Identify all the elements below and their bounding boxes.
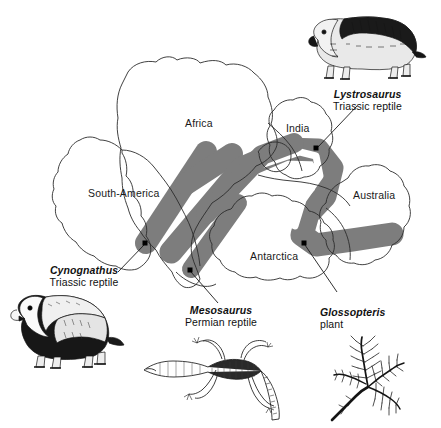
lystrosaurus-genus: Lystrosaurus: [320, 88, 415, 100]
glossopteris-description: plant: [320, 318, 430, 330]
lystrosaurus-caption: Lystrosaurus Triassic reptile: [320, 88, 415, 113]
mesosaurus-description: Permian reptile: [165, 316, 277, 328]
mesosaurus-illustration: [140, 330, 290, 422]
site-mesosaurus-dot: [188, 268, 193, 273]
map-label-antarctica: Antarctica: [250, 251, 298, 262]
glossopteris-genus: Glossopteris: [320, 306, 430, 318]
cynognathus-description: Triassic reptile: [30, 276, 138, 288]
gondwana-fossil-map-figure: Africa South-America India Australia Ant…: [0, 0, 441, 428]
cynognathus-illustration: [8, 292, 128, 370]
site-lystrosaurus-dot: [314, 146, 319, 151]
cynognathus-genus: Cynognathus: [30, 264, 138, 276]
glossopteris-caption: Glossopteris plant: [320, 306, 430, 331]
map-label-africa: Africa: [185, 118, 213, 129]
mesosaurus-genus: Mesosaurus: [165, 304, 277, 316]
map-label-australia: Australia: [353, 190, 395, 201]
site-cynognathus-dot: [143, 241, 148, 246]
lystrosaurus-illustration: [300, 10, 430, 82]
map-label-south-america: South-America: [88, 188, 159, 199]
site-glossopteris-dot: [302, 241, 307, 246]
mesosaurus-caption: Mesosaurus Permian reptile: [165, 304, 277, 329]
map-label-india: India: [286, 123, 310, 134]
leader-mesosaurus: [191, 272, 218, 303]
glossopteris-illustration: [326, 332, 418, 424]
cynognathus-caption: Cynognathus Triassic reptile: [30, 264, 138, 289]
outline-south-america: [52, 137, 151, 270]
lystrosaurus-description: Triassic reptile: [320, 100, 415, 112]
